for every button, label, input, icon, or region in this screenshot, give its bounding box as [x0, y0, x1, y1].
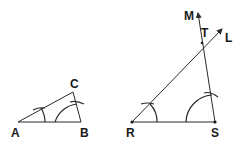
angle-r-arc: [150, 104, 157, 122]
angle-b-arc: [55, 104, 77, 122]
label-b: B: [80, 126, 89, 140]
angle-s-arc: [186, 95, 212, 122]
label-t: T: [201, 26, 209, 40]
label-m: M: [184, 9, 194, 23]
point-t: [201, 42, 204, 45]
label-l: L: [225, 31, 232, 45]
label-s: S: [211, 126, 219, 140]
angle-a-tick: [33, 108, 45, 110]
geometry-diagram: A B C R S T L M: [0, 0, 234, 143]
triangle-abc: A B C: [11, 77, 89, 140]
label-c: C: [70, 77, 79, 91]
angle-a-arc: [41, 108, 45, 122]
point-s: [213, 120, 216, 123]
ray-rl: [132, 29, 222, 122]
label-r: R: [126, 126, 135, 140]
angle-b-tick: [70, 101, 84, 104]
label-a: A: [11, 126, 20, 140]
side-bc: [73, 92, 81, 122]
side-ac: [18, 92, 73, 122]
triangle-rst: R S T L M: [126, 9, 232, 140]
point-r: [130, 120, 133, 123]
angle-r-tick: [141, 103, 154, 104]
